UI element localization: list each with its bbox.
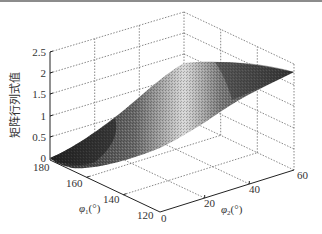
z-tick-labels: 0 0.5 1 1.5 2 2.5 bbox=[32, 46, 46, 164]
phi2-tick-0: 0 bbox=[161, 212, 167, 224]
phi1-tick-140: 140 bbox=[103, 193, 120, 205]
phi1-tick-160: 160 bbox=[66, 177, 83, 189]
phi1-tick-180: 180 bbox=[33, 161, 50, 173]
surface-plot: 0 0.5 1 1.5 2 2.5 矩阵行列式值 180 160 140 120… bbox=[0, 0, 322, 234]
z-tick-1.5: 1.5 bbox=[32, 88, 46, 100]
phi2-axis-label: φ2(°) bbox=[221, 203, 243, 217]
phi2-tick-60: 60 bbox=[297, 169, 309, 181]
phi2-tick-40: 40 bbox=[249, 183, 261, 195]
z-tick-2: 2 bbox=[41, 67, 47, 79]
z-tick-1: 1 bbox=[41, 110, 47, 122]
z-axis-label: 矩阵行列式值 bbox=[8, 72, 22, 138]
phi1-tick-120: 120 bbox=[137, 209, 154, 221]
z-tick-0.5: 0.5 bbox=[32, 131, 46, 143]
phi2-tick-20: 20 bbox=[204, 197, 216, 209]
phi1-axis-label: φ1(°) bbox=[79, 202, 101, 216]
z-tick-2.5: 2.5 bbox=[32, 46, 46, 58]
